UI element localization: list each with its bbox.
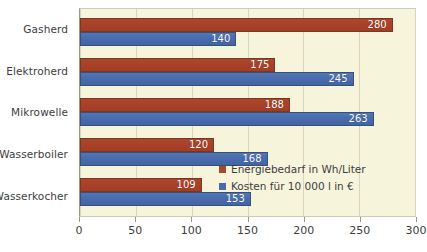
legend-label: Kosten für 10 000 l in € (231, 180, 354, 192)
axis-tick (360, 217, 361, 222)
bar-value-label: 175 (250, 60, 274, 70)
bar-group: 280140 (80, 12, 415, 52)
bar[interactable]: 245 (80, 72, 354, 86)
bar[interactable]: 140 (80, 32, 236, 46)
bar-group: 188263 (80, 92, 415, 132)
legend-swatch-icon (219, 166, 226, 173)
bar-value-label: 120 (189, 140, 213, 150)
legend-item[interactable]: Energiebedarf in Wh/Liter (219, 163, 366, 175)
legend: Energiebedarf in Wh/LiterKosten für 10 0… (219, 163, 366, 192)
bar-value-label: 153 (226, 194, 250, 204)
bar-row: 280 (80, 18, 415, 32)
axis-tick (135, 217, 136, 222)
bar-value-label: 280 (368, 20, 392, 30)
legend-swatch-icon (219, 183, 226, 190)
category-axis: GasherdElektroherdMikrowelleWasserboiler… (0, 8, 74, 217)
bar-row: 188 (80, 98, 415, 112)
axis-tick (416, 217, 417, 222)
category-label: Wasserkocher (0, 175, 74, 217)
bar[interactable]: 120 (80, 138, 214, 152)
bar[interactable]: 153 (80, 192, 251, 206)
bar-row: 140 (80, 32, 415, 46)
axis-tick (304, 217, 305, 222)
gridline (415, 9, 416, 216)
bar-value-label: 263 (349, 114, 373, 124)
bar-row: 175 (80, 58, 415, 72)
bar-group: 175245 (80, 52, 415, 92)
legend-label: Energiebedarf in Wh/Liter (231, 163, 366, 175)
bar-value-label: 188 (265, 100, 289, 110)
axis-tick (248, 217, 249, 222)
axis-tick-label: 250 (349, 224, 370, 237)
category-label: Gasherd (0, 8, 74, 50)
bar-row: 153 (80, 192, 415, 206)
bar-row: 245 (80, 72, 415, 86)
bar[interactable]: 175 (80, 58, 275, 72)
bar-value-label: 109 (177, 180, 201, 190)
bar[interactable]: 263 (80, 112, 374, 126)
axis-tick-label: 200 (293, 224, 314, 237)
axis-tick-label: 100 (181, 224, 202, 237)
axis-tick-label: 150 (237, 224, 258, 237)
value-axis: 050100150200250300 (79, 217, 416, 247)
bar-row: 120 (80, 138, 415, 152)
bar[interactable]: 109 (80, 178, 202, 192)
category-label: Elektroherd (0, 50, 74, 92)
axis-tick-label: 50 (128, 224, 142, 237)
bar-value-label: 140 (211, 34, 235, 44)
axis-tick (191, 217, 192, 222)
axis-tick (79, 217, 80, 222)
axis-tick-label: 0 (76, 224, 83, 237)
legend-item[interactable]: Kosten für 10 000 l in € (219, 180, 366, 192)
bar[interactable]: 188 (80, 98, 290, 112)
category-label: Mikrowelle (0, 92, 74, 134)
bar[interactable]: 280 (80, 18, 393, 32)
bar-value-label: 245 (328, 74, 352, 84)
axis-tick-label: 300 (406, 224, 427, 237)
category-label: Wasserboiler (0, 133, 74, 175)
bar-row: 263 (80, 112, 415, 126)
